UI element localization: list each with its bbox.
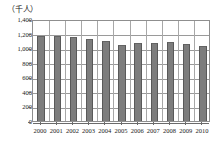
y-tick-mark	[28, 20, 31, 21]
y-tick-mark	[28, 107, 31, 108]
x-tick-mark	[104, 122, 105, 125]
x-tick-label: 2004	[97, 127, 113, 135]
x-tick-label: 2010	[194, 127, 210, 135]
y-tick-mark	[28, 49, 31, 50]
x-tick-label: 2006	[129, 127, 145, 135]
bar[interactable]	[151, 43, 158, 121]
x-tick-mark	[137, 122, 138, 125]
x-tick-label: 2003	[81, 127, 97, 135]
bar[interactable]	[199, 46, 206, 121]
x-tick-mark	[121, 122, 122, 125]
x-tick-label: 2007	[145, 127, 161, 135]
y-tick-mark	[28, 122, 31, 123]
x-tick-label: 2001	[48, 127, 64, 135]
bar[interactable]	[167, 42, 174, 121]
bars-layer	[33, 21, 209, 121]
plot-area	[32, 20, 210, 122]
bar[interactable]	[54, 36, 61, 121]
x-tick-mark	[88, 122, 89, 125]
bar[interactable]	[118, 45, 125, 122]
bar[interactable]	[86, 39, 93, 121]
x-tick-label: 2000	[32, 127, 48, 135]
y-tick-mark	[28, 78, 31, 79]
x-tick-mark	[185, 122, 186, 125]
y-tick-mark	[28, 63, 31, 64]
x-tick-label: 2002	[64, 127, 80, 135]
y-axis: 02004006008001,0001,2001,400	[0, 20, 32, 122]
bar[interactable]	[102, 41, 109, 122]
x-tick-mark	[40, 122, 41, 125]
bar[interactable]	[183, 44, 190, 121]
bar[interactable]	[70, 37, 77, 121]
bar[interactable]	[37, 36, 44, 121]
x-tick-label: 2005	[113, 127, 129, 135]
x-tick-mark	[72, 122, 73, 125]
x-tick-mark	[201, 122, 202, 125]
y-axis-unit-label: （千人）	[7, 3, 38, 14]
x-tick-mark	[56, 122, 57, 125]
x-tick-mark	[169, 122, 170, 125]
x-tick-label: 2008	[161, 127, 177, 135]
x-axis: 2000200120022003200420052006200720082009…	[32, 122, 210, 144]
x-tick-label: 2009	[178, 127, 194, 135]
y-tick-mark	[28, 92, 31, 93]
x-tick-mark	[153, 122, 154, 125]
bar[interactable]	[134, 43, 141, 121]
chart-screenshot: （千人） 02004006008001,0001,2001,400 200020…	[0, 0, 217, 147]
y-tick-mark	[28, 34, 31, 35]
